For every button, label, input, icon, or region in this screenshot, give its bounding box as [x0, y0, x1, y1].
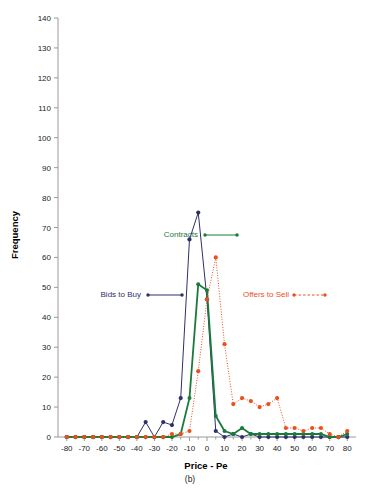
- data-point: [319, 426, 323, 430]
- x-axis-tick-label: -60: [96, 444, 108, 453]
- x-axis-tick-label: 70: [325, 444, 334, 453]
- x-axis-title: Price - Pe: [184, 460, 227, 471]
- x-axis-tick-label: -10: [184, 444, 196, 453]
- x-axis-tick-label: 40: [273, 444, 282, 453]
- data-point: [196, 369, 200, 373]
- figure-panel: 0102030405060708090100110120130140 -80-7…: [0, 0, 380, 499]
- data-point: [249, 432, 253, 436]
- y-axis-tick-label: 40: [42, 313, 51, 322]
- data-point: [152, 435, 156, 439]
- x-axis-tick-label: -70: [79, 444, 91, 453]
- x-axis-tick-label: 10: [220, 444, 229, 453]
- x-axis-tick-label: -40: [131, 444, 143, 453]
- data-point: [82, 435, 86, 439]
- data-point: [310, 432, 314, 436]
- data-point: [222, 342, 226, 346]
- data-point: [293, 432, 297, 436]
- y-axis-tick-label: 130: [38, 44, 52, 53]
- data-point: [91, 435, 95, 439]
- data-point: [108, 435, 112, 439]
- frequency-distribution-chart: 0102030405060708090100110120130140 -80-7…: [0, 0, 380, 499]
- data-point: [117, 435, 121, 439]
- data-point: [240, 396, 244, 400]
- annotation-label: Offers to Sell: [243, 290, 289, 299]
- data-point: [249, 399, 253, 403]
- data-point: [179, 432, 183, 436]
- data-point: [161, 420, 165, 424]
- data-point: [170, 423, 174, 427]
- x-axis-tick-label: 0: [205, 444, 210, 453]
- y-axis-tick-label: 10: [42, 403, 51, 412]
- data-point: [319, 432, 323, 436]
- data-point: [187, 429, 191, 433]
- data-point: [161, 435, 165, 439]
- annotation-end-dot: [323, 293, 326, 296]
- x-axis-tick-label: 30: [255, 444, 264, 453]
- y-axis-tick-label: 120: [38, 74, 52, 83]
- data-point: [144, 420, 148, 424]
- data-point: [205, 297, 209, 301]
- annotation-start-dot: [203, 233, 206, 236]
- data-point: [257, 405, 261, 409]
- y-axis-tick-label: 30: [42, 343, 51, 352]
- data-point: [214, 255, 218, 259]
- x-axis-tick-label: 50: [290, 444, 299, 453]
- x-axis-tick-label: -30: [149, 444, 161, 453]
- y-axis-tick-label: 20: [42, 373, 51, 382]
- data-point: [135, 435, 139, 439]
- x-axis-tick-label: 80: [343, 444, 352, 453]
- y-axis-tick-label: 110: [38, 104, 51, 113]
- data-point: [258, 432, 262, 436]
- data-point: [240, 435, 244, 439]
- y-axis-tick-label: 60: [42, 253, 51, 262]
- data-point: [100, 435, 104, 439]
- y-axis-tick-label: 140: [38, 14, 52, 23]
- data-point: [214, 429, 218, 433]
- data-point: [328, 432, 332, 436]
- data-point: [310, 426, 314, 430]
- data-point: [336, 435, 340, 439]
- data-point: [231, 402, 235, 406]
- y-axis-tick-label: 0: [47, 433, 52, 442]
- data-point: [223, 429, 227, 433]
- data-point: [196, 210, 200, 214]
- data-point: [73, 435, 77, 439]
- data-point: [293, 426, 297, 430]
- y-axis-tick-label: 50: [42, 283, 51, 292]
- y-axis-tick-label: 70: [42, 224, 51, 233]
- data-point: [126, 435, 130, 439]
- data-point: [222, 435, 226, 439]
- annotation-label: Contracts: [164, 230, 198, 239]
- data-point: [266, 402, 270, 406]
- y-axis-tick-label: 100: [38, 134, 52, 143]
- data-point: [266, 432, 270, 436]
- data-point: [301, 429, 305, 433]
- annotation-end-dot: [235, 233, 238, 236]
- y-axis-tick-label: 80: [42, 194, 51, 203]
- x-axis-tick-label: -20: [166, 444, 178, 453]
- data-point: [275, 396, 279, 400]
- data-point: [275, 432, 279, 436]
- annotation-start-dot: [146, 293, 149, 296]
- x-axis-tick-label: 60: [308, 444, 317, 453]
- annotation-start-dot: [292, 293, 295, 296]
- data-point: [170, 432, 174, 436]
- y-axis-title: Frequency: [9, 210, 20, 259]
- x-axis-tick-label: -80: [61, 444, 73, 453]
- data-point: [231, 432, 235, 436]
- data-point: [240, 426, 244, 430]
- data-point: [144, 435, 148, 439]
- data-point: [65, 435, 69, 439]
- x-axis-tick-label: 20: [238, 444, 247, 453]
- figure-caption: (b): [185, 474, 196, 484]
- data-point: [284, 426, 288, 430]
- annotation-label: Bids to Buy: [101, 290, 141, 299]
- data-point: [196, 282, 200, 286]
- data-point: [187, 396, 191, 400]
- data-point: [214, 414, 218, 418]
- data-point: [179, 396, 183, 400]
- annotation-end-dot: [180, 293, 183, 296]
- data-point: [345, 429, 349, 433]
- y-axis-tick-label: 90: [42, 164, 51, 173]
- x-axis-tick-label: -50: [114, 444, 126, 453]
